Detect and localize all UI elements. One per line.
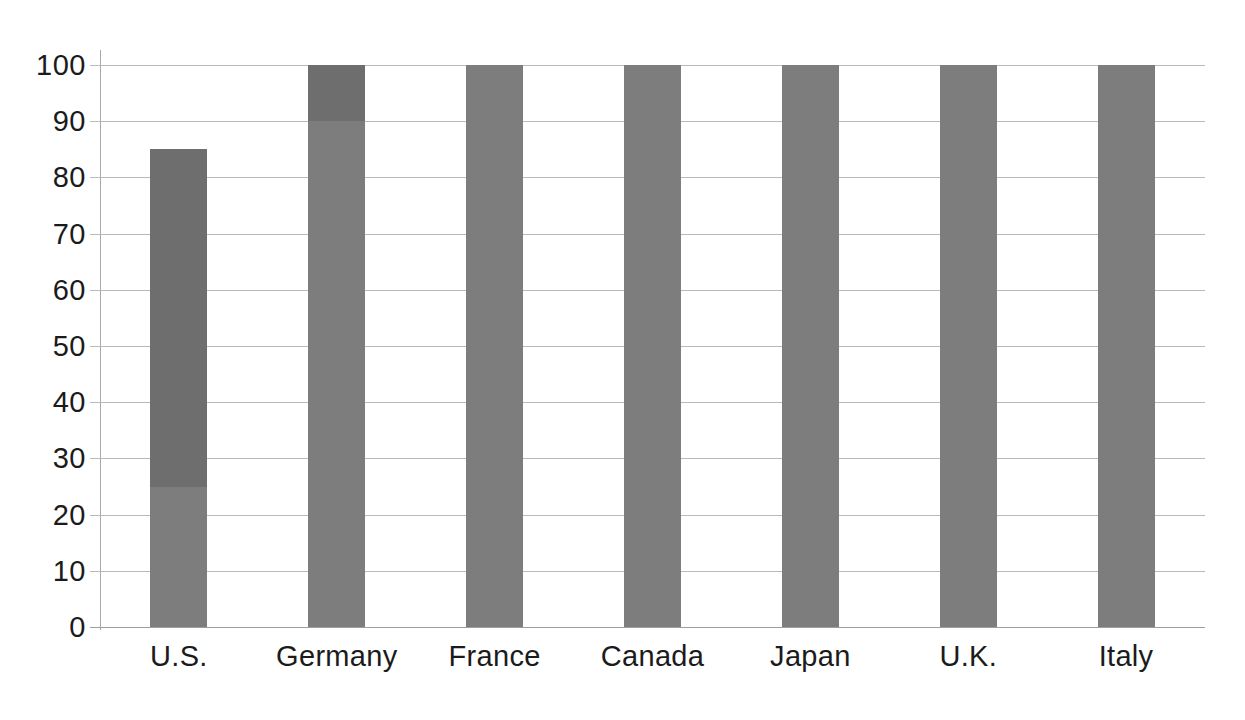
y-tick-label-100: 100 — [16, 49, 86, 82]
y-tick-label-0: 0 — [16, 611, 86, 644]
x-axis-label-germany: Germany — [276, 640, 397, 673]
bar-chart: 0102030405060708090100 U.S.GermanyFrance… — [0, 0, 1245, 720]
y-tick-label-20: 20 — [16, 498, 86, 531]
bar-france — [466, 65, 523, 627]
y-tick-label-60: 60 — [16, 273, 86, 306]
x-axis-label-uk: U.K. — [939, 640, 997, 673]
bar-segment-lower — [1098, 65, 1155, 627]
x-axis-label-japan: Japan — [770, 640, 851, 673]
bar-segment-upper — [308, 65, 365, 121]
x-axis-label-us: U.S. — [150, 640, 208, 673]
bar-uk — [940, 65, 997, 627]
bar-segment-lower — [308, 121, 365, 627]
x-axis-label-canada: Canada — [601, 640, 704, 673]
y-tick-label-80: 80 — [16, 161, 86, 194]
y-tick-label-40: 40 — [16, 386, 86, 419]
bar-japan — [782, 65, 839, 627]
bar-segment-lower — [940, 65, 997, 627]
plot-area — [100, 65, 1205, 627]
bar-us — [150, 149, 207, 627]
y-axis-labels: 0102030405060708090100 — [0, 0, 86, 720]
bar-segment-lower — [624, 65, 681, 627]
bar-segment-lower — [782, 65, 839, 627]
y-tick-label-70: 70 — [16, 217, 86, 250]
y-tick-label-50: 50 — [16, 330, 86, 363]
bar-germany — [308, 65, 365, 627]
x-axis-labels: U.S.GermanyFranceCanadaJapanU.K.Italy — [100, 640, 1205, 700]
gridline-0 — [90, 627, 1205, 628]
x-axis-label-france: France — [449, 640, 541, 673]
bar-segment-lower — [150, 487, 207, 628]
bar-canada — [624, 65, 681, 627]
y-tick-label-90: 90 — [16, 105, 86, 138]
y-tick-label-10: 10 — [16, 554, 86, 587]
bar-segment-upper — [150, 149, 207, 486]
bars — [100, 65, 1205, 627]
y-tick-label-30: 30 — [16, 442, 86, 475]
bar-segment-lower — [466, 65, 523, 627]
bar-italy — [1098, 65, 1155, 627]
x-axis-label-italy: Italy — [1099, 640, 1154, 673]
